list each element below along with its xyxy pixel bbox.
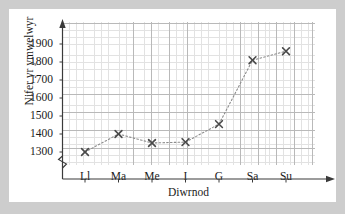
line-chart-figure: 1900180017001600150014001300 LlMaMeIGSaS… — [9, 9, 336, 202]
data-point-marker — [216, 121, 223, 128]
data-point-marker — [149, 140, 156, 147]
data-point-marker — [249, 57, 256, 64]
data-point-marker — [283, 48, 290, 55]
chart-data-layer — [62, 22, 315, 165]
chart-card: 1900180017001600150014001300 LlMaMeIGSaS… — [9, 9, 336, 202]
data-point-marker — [115, 131, 122, 138]
data-point-marker — [82, 149, 89, 156]
screenshot-page: 1900180017001600150014001300 LlMaMeIGSaS… — [0, 0, 345, 214]
